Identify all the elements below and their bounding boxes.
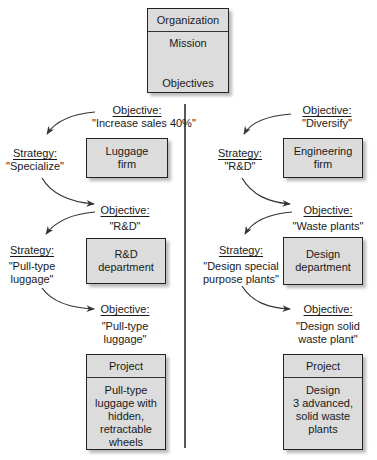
left-strategy2-to-objective3-arrow (42, 288, 94, 309)
project-line: 3 advanced, (284, 397, 362, 410)
left-strategy-2: Strategy: "Pull-type luggage" (4, 244, 60, 286)
project-header: Project (284, 355, 362, 378)
objective-heading: Objective: (95, 204, 155, 217)
strategy-heading: Strategy: (0, 147, 70, 160)
objectives-label: Objectives (148, 77, 228, 90)
project-line: plants (284, 423, 362, 436)
right-strategy1-to-objective2-arrow (242, 178, 290, 204)
objective-heading: Objective: (290, 303, 366, 316)
right-objective-1: Objective: "Diversify" (292, 104, 362, 130)
right-strategy-1: Strategy: "R&D" (210, 147, 270, 173)
objective-value: "Waste plants" (290, 220, 366, 233)
unit-line: firm (118, 158, 136, 171)
strategy-line: "Pull-type (4, 260, 60, 273)
objective-line: luggage" (95, 333, 155, 346)
strategy-line: luggage" (4, 273, 60, 286)
project-line: solid waste (284, 410, 362, 423)
objective-value: "Diversify" (292, 117, 362, 130)
mission-label: Mission (148, 37, 228, 50)
right-objective-2: Objective: "Waste plants" (290, 204, 366, 233)
strategy-value: "R&D" (210, 160, 270, 173)
strategy-value: "Specialize" (0, 160, 70, 173)
project-line: wheels (87, 436, 165, 449)
right-objective-3: Objective: "Design solid waste plant" (290, 303, 366, 346)
strategy-heading: Strategy: (210, 147, 270, 160)
right-strategy2-to-objective3-arrow (242, 286, 290, 309)
left-objective-2: Objective: "R&D" (95, 204, 155, 233)
objective-heading: Objective: (292, 104, 362, 117)
left-objective-3: Objective: "Pull-type luggage" (95, 303, 155, 346)
project-body: Pull-type luggage with hidden, retractab… (87, 378, 165, 449)
project-line: hidden, (87, 410, 165, 423)
project-line: Design (284, 384, 362, 397)
unit-line: department (98, 261, 154, 274)
objective-value: "R&D" (95, 220, 155, 233)
unit-line: R&D (114, 248, 137, 261)
unit-line: Design (306, 248, 340, 261)
right-project-box: Project Design 3 advanced, solid waste p… (283, 354, 363, 450)
project-header: Project (87, 355, 165, 378)
left-objective1-to-strategy1-arrow (47, 112, 95, 134)
organization-box: Organization Mission Objectives (147, 8, 229, 93)
objective-heading: Objective: (290, 204, 366, 217)
right-objective2-to-strategy2-arrow (245, 212, 292, 234)
objective-value: "Increase sales 40%" (92, 117, 182, 130)
left-strategy-1: Strategy: "Specialize" (0, 147, 70, 173)
strategy-heading: Strategy: (198, 244, 284, 257)
right-strategy-2: Strategy: "Design special purpose plants… (198, 244, 284, 286)
left-unit-2-box: R&D department (86, 238, 166, 284)
objective-line: "Pull-type (95, 320, 155, 333)
left-strategy1-to-objective2-arrow (42, 178, 94, 204)
project-line: retractable (87, 423, 165, 436)
unit-line: department (295, 261, 351, 274)
objective-heading: Objective: (92, 104, 182, 117)
left-project-box: Project Pull-type luggage with hidden, r… (86, 354, 166, 450)
right-objective1-to-strategy1-arrow (244, 114, 291, 134)
left-objective2-to-strategy2-arrow (46, 212, 95, 234)
right-unit-2-box: Design department (283, 237, 363, 285)
objective-heading: Objective: (95, 303, 155, 316)
project-line: luggage with (87, 397, 165, 410)
project-body: Design 3 advanced, solid waste plants (284, 378, 362, 449)
strategy-line: purpose plants" (198, 273, 284, 286)
unit-line: Engineering (294, 145, 353, 158)
objective-line: waste plant" (290, 333, 366, 346)
unit-line: Luggage (106, 145, 149, 158)
left-objective-1: Objective: "Increase sales 40%" (92, 104, 182, 130)
objective-line: "Design solid (290, 320, 366, 333)
right-unit-1-box: Engineering firm (283, 138, 363, 178)
project-line: Pull-type (87, 384, 165, 397)
left-unit-1-box: Luggage firm (86, 138, 168, 178)
unit-line: firm (314, 158, 332, 171)
strategy-line: "Design special (198, 260, 284, 273)
strategy-heading: Strategy: (4, 244, 60, 257)
organization-header: Organization (148, 9, 228, 32)
